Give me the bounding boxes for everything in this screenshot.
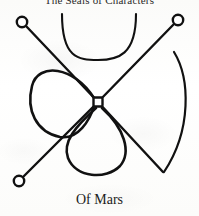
scanned-page: The Seals of Characters Of Mars bbox=[0, 0, 199, 216]
center-node bbox=[94, 98, 103, 107]
diagonal-top-right-to-center bbox=[98, 24, 174, 102]
bottom-teardrop-loop bbox=[67, 108, 126, 175]
top-left-node bbox=[17, 17, 27, 27]
top-right-node bbox=[173, 15, 183, 25]
upper-u-arc bbox=[62, 14, 136, 60]
figure-caption: Of Mars bbox=[0, 192, 199, 208]
right-great-arc bbox=[164, 52, 186, 172]
left-teardrop-loop bbox=[30, 71, 94, 138]
sigil-figure bbox=[0, 0, 199, 216]
bottom-left-node bbox=[14, 176, 24, 186]
diagonal-center-to-bottom-left bbox=[23, 102, 98, 177]
